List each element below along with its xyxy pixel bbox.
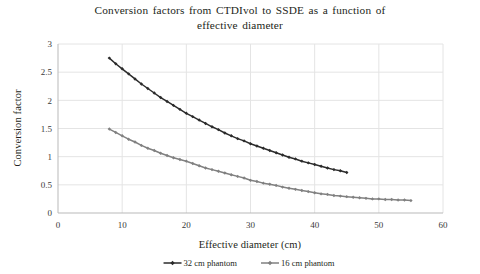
series-marker [339,194,342,197]
series-marker [364,197,367,200]
y-tick-label: 1 [48,152,53,162]
x-tick-label: 60 [439,220,449,230]
x-tick-label: 20 [182,220,192,230]
x-tick-label: 30 [246,220,256,230]
y-tick-label: 2.5 [41,67,53,77]
legend-label: 32 cm phantom [184,258,238,268]
y-axis-tick-labels: 00.511.522.53 [41,39,53,218]
series-marker [313,191,316,194]
y-tick-label: 0 [48,208,53,218]
series-marker [326,166,329,169]
legend-swatch-marker [268,261,272,265]
legend-label: 16 cm phantom [281,258,335,268]
series-marker [409,199,412,202]
chart-legend: 32 cm phantom16 cm phantom [164,258,335,268]
series-marker [307,161,310,164]
series-marker [294,188,297,191]
series-line [109,129,411,201]
series-marker [281,185,284,188]
y-tick-label: 1.5 [41,124,53,134]
series-marker [371,197,374,200]
chart-figure: Conversion factors from CTDIvol to SSDE … [0,0,480,274]
x-tick-label: 40 [310,220,320,230]
series-marker [217,170,220,173]
series-marker [178,158,181,161]
y-axis-title: Conversion factor [12,89,23,167]
series-marker [403,198,406,201]
series-marker [384,198,387,201]
data-series [108,127,413,202]
series-marker [332,168,335,171]
series-marker [345,171,348,174]
series-marker [390,198,393,201]
series-marker [223,171,226,174]
series-marker [332,194,335,197]
series-marker [230,173,233,176]
series-marker [268,183,271,186]
x-tick-label: 10 [118,220,128,230]
data-series-layer [108,56,413,202]
series-marker [358,196,361,199]
series-marker [300,189,303,192]
x-tick-label: 50 [374,220,384,230]
series-marker [377,197,380,200]
series-marker [313,163,316,166]
series-marker [326,193,329,196]
series-marker [345,195,348,198]
series-marker [210,168,213,171]
series-marker [255,180,258,183]
series-marker [319,192,322,195]
series-marker [319,165,322,168]
series-marker [236,175,239,178]
chart-plot-area: 00.511.522.53 0102030405060 Conversion f… [0,0,480,274]
series-marker [287,187,290,190]
series-marker [351,196,354,199]
y-tick-label: 0.5 [41,180,53,190]
series-marker [274,184,277,187]
legend-swatch-marker [170,261,174,265]
x-tick-label: 0 [56,220,61,230]
series-marker [396,198,399,201]
grid-lines [58,44,443,213]
y-tick-label: 3 [48,39,53,49]
y-tick-label: 2 [48,96,53,106]
series-marker [307,190,310,193]
x-axis-tick-labels: 0102030405060 [56,220,448,230]
series-marker [339,169,342,172]
series-line [109,58,346,172]
x-axis-title: Effective diameter (cm) [199,239,302,251]
